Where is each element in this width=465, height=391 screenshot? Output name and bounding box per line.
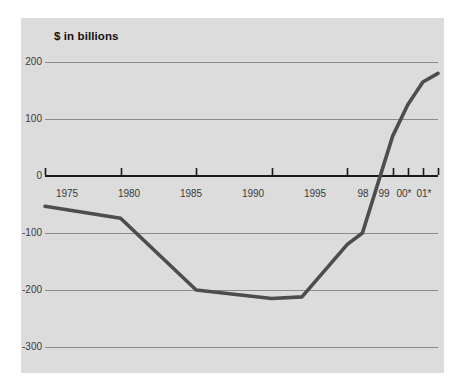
chart-canvas xyxy=(0,0,465,391)
gridlines-group xyxy=(45,63,438,348)
data-series-line xyxy=(45,73,438,298)
chart-figure: $ in billions 200 100 0 -100 -200 -300 1… xyxy=(0,0,465,391)
